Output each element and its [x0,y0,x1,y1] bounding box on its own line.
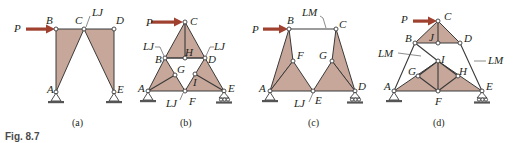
load-arrow-p [413,17,437,26]
joint-label-c: C [190,15,198,27]
joint-label-g: G [319,49,327,61]
joint-d [203,56,207,60]
joint-label-e: E [314,94,322,106]
joint-b [287,27,291,31]
joint-b [54,27,58,31]
joint-f [183,89,187,93]
joint-label-g: G [408,65,416,77]
joint-label-g: G [177,63,185,75]
joint-label-d: D [357,80,366,92]
joint-b [413,41,417,45]
joint-label-c: C [339,18,347,30]
joint-label-b: B [46,14,53,26]
joint-label-a: A [137,82,145,94]
joint-label-a: A [383,80,391,92]
joint-label-h: H [184,46,194,58]
joint-label-d: D [463,32,472,44]
joint-b [163,56,167,60]
joint-f [291,59,295,63]
joint-label-f: F [296,49,304,61]
caption-a: (a) [72,117,83,129]
panel-c: P B C F G A D E LM LJ (c) [251,6,366,129]
load-label-p: P [251,23,259,35]
joint-g [416,74,420,78]
annotation-lm-left: LM [377,47,394,59]
rigid-body-cde [84,29,114,92]
lm-leader-line [320,16,326,28]
joint-c [334,27,338,31]
annotation-lm: LM [301,6,318,18]
lj-leader-f [180,93,183,100]
roller-support-e [474,92,490,104]
joint-i [436,59,440,63]
caption-d: (d) [433,117,445,129]
joint-label-b: B [405,32,412,44]
load-arrow-p [263,25,288,34]
annotation-lj: LJ [293,97,306,109]
panel-b: P C B H D G I A F E LJ LJ LJ (b) [137,15,235,129]
panel-d: P C B J D I G H A F E LM LM (d) [377,10,504,129]
joint-d [458,41,462,45]
joint-c [183,20,187,24]
joint-label-e: E [116,83,124,95]
joint-label-b: B [155,53,162,65]
joint-label-a: A [46,83,54,95]
figure-8-7: P B C D A E LJ (a) P C B H D [0,0,521,143]
rigid-body-right [185,58,224,91]
joint-c [82,27,86,31]
joint-d [112,27,116,31]
rigid-body-abc [56,29,84,92]
annotation-lj-left: LJ [142,40,155,52]
annotation-lj-bottom: LJ [165,97,178,109]
figure-label: Fig. 8.7 [5,131,40,142]
joint-e [311,89,315,93]
joint-label-h: H [458,65,468,77]
load-arrow-p [151,18,183,27]
joint-label-a: A [258,82,266,94]
joint-g [330,59,334,63]
joint-label-d: D [115,14,124,26]
joint-f [436,89,440,93]
joint-label-d: D [207,53,216,65]
roller-support-d [347,92,363,104]
annotation-lj-right: LJ [213,40,226,52]
joint-label-b: B [287,14,294,26]
annotation-lm-right: LM [487,54,504,66]
lj-leader-line [309,93,313,102]
joint-c [436,19,440,23]
load-label-p: P [145,16,153,28]
caption-b: (b) [180,117,192,129]
joint-label-c: C [444,10,452,22]
joint-label-e: E [227,82,235,94]
joint-label-e: E [485,80,493,92]
joint-j [436,41,440,45]
annotation-lj: LJ [91,6,104,18]
load-label-p: P [13,22,21,34]
joint-label-f: F [434,95,442,107]
panel-a: P B C D A E LJ (a) [13,6,124,129]
load-label-p: P [400,13,408,25]
caption-c: (c) [308,117,319,129]
joint-label-c: C [75,14,83,26]
pin-support-a [386,92,402,102]
joint-label-f: F [188,95,196,107]
lj-leader-line [86,16,90,27]
joint-label-i: I [440,53,446,65]
